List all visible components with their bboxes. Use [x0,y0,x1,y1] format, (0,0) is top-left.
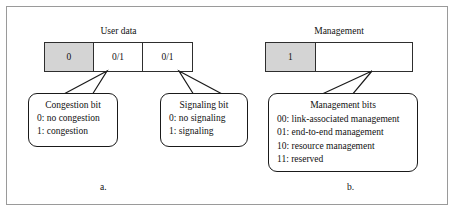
congestion-callout-title: Congestion bit [37,99,109,112]
signaling-callout-title: Signaling bit [169,99,239,112]
subfigure-label-a: a. [100,182,107,193]
management-cell-1: 1 [266,43,316,71]
congestion-callout-line-0: 0: no congestion [37,112,109,125]
management-callout-line-0: 00: link-associated management [277,113,409,126]
management-cell-bits [316,43,412,71]
user-data-cell-signaling: 0/1 [143,43,192,71]
management-callout-title: Management bits [277,99,409,112]
bit-field-figure: User data 0 0/1 0/1 Congestion bit 0: no… [0,0,455,218]
user-data-cell-congestion: 0/1 [94,43,143,71]
user-data-caption: User data [44,26,193,37]
management-callout-line-1: 01: end-to-end management [277,126,409,139]
subfigure-label-b: b. [347,182,354,193]
signaling-callout-line-0: 0: no signaling [169,112,239,125]
user-data-bit-bar: 0 0/1 0/1 [44,42,193,72]
signaling-bit-callout: Signaling bit 0: no signaling 1: signali… [160,93,248,147]
management-caption: Management [265,26,413,37]
congestion-bit-callout: Congestion bit 0: no congestion 1: conge… [28,93,118,147]
management-callout-line-3: 11: reserved [277,153,409,166]
management-bits-callout: Management bits 00: link-associated mana… [268,93,418,172]
management-bit-bar: 1 [265,42,413,72]
user-data-cell-0: 0 [45,43,94,71]
congestion-callout-line-1: 1: congestion [37,125,109,138]
signaling-callout-line-1: 1: signaling [169,125,239,138]
management-callout-line-2: 10: resource management [277,140,409,153]
